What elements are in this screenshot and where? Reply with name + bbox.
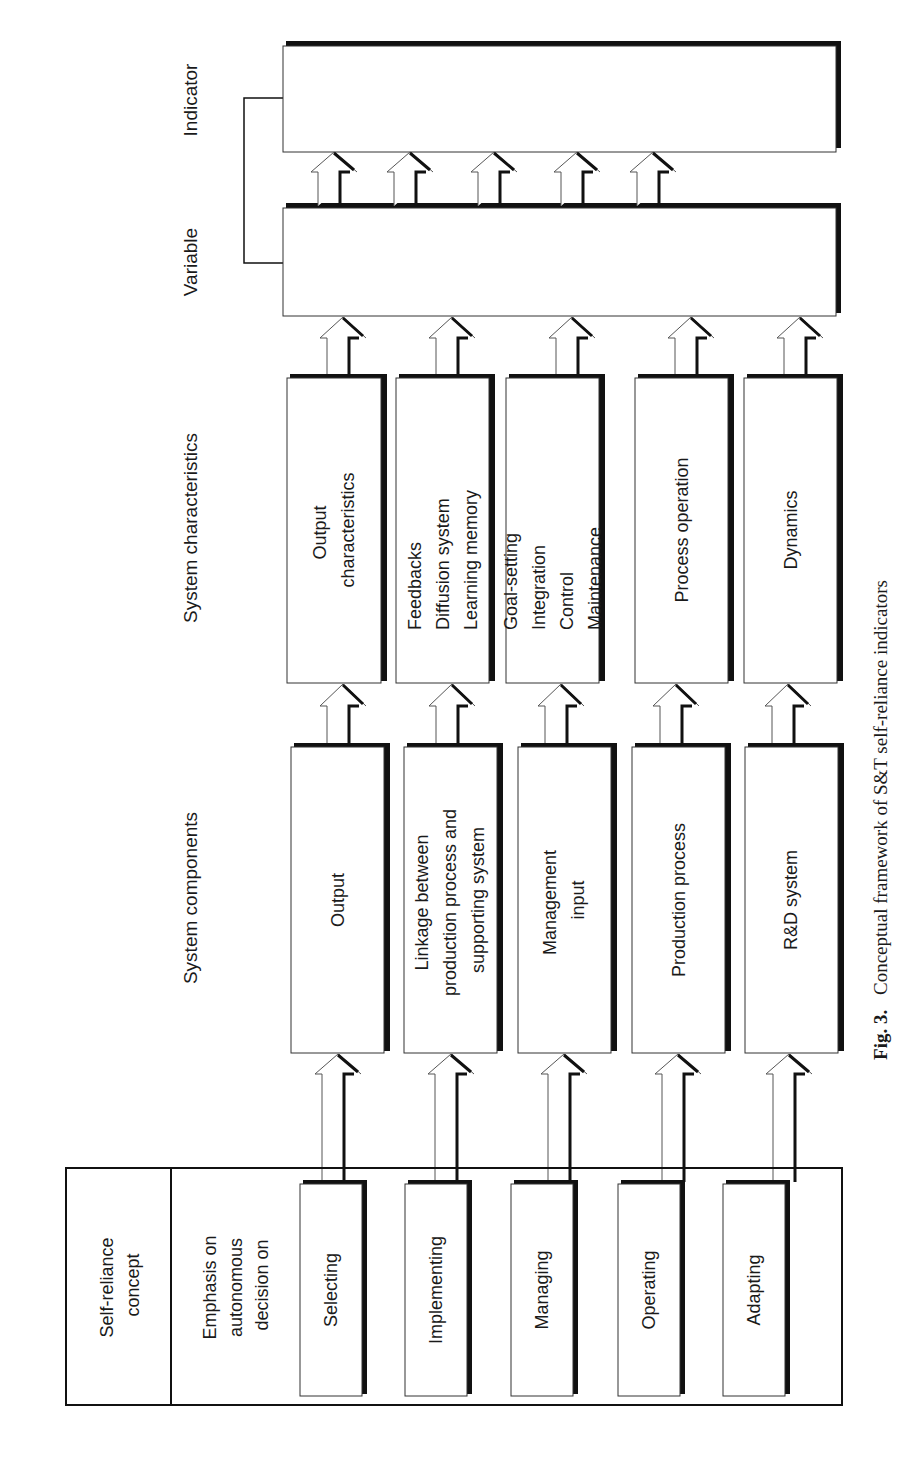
characteristics-text: Feedbacks (405, 542, 425, 630)
characteristics-text: Process operation (672, 457, 692, 602)
decision-box-operating: Operating (618, 1180, 685, 1396)
arrows-components-to-characteristics (320, 684, 811, 745)
table-title: Self-reliance (97, 1237, 117, 1337)
characteristics-box-4: Process operation (635, 374, 734, 683)
arrows-variable-to-indicator (311, 152, 676, 206)
caption-label: Fig. 3. (870, 1010, 891, 1060)
decision-label: Operating (639, 1250, 659, 1329)
component-text: Output (328, 873, 348, 927)
emphasis-label: decision on (252, 1239, 272, 1330)
header-system-characteristics: System characteristics (180, 433, 201, 623)
decision-box-adapting: Adapting (723, 1180, 790, 1396)
characteristics-text: characteristics (338, 472, 358, 587)
characteristics-box-1: Output characteristics (287, 374, 387, 683)
decision-box-selecting: Selecting (300, 1180, 367, 1396)
component-box-1: Output (291, 743, 390, 1053)
arrows-decisions-to-components (315, 1054, 812, 1182)
component-text: Linkage between (412, 834, 432, 970)
decision-box-implementing: Implementing (405, 1180, 472, 1396)
variable-box (283, 203, 841, 316)
emphasis-label: Emphasis on (200, 1235, 220, 1339)
characteristics-box-3: Goal-setting Integration Control Mainten… (501, 374, 605, 683)
svg-text:Production process: Production process (669, 823, 689, 977)
decision-label: Implementing (426, 1236, 446, 1344)
svg-text:Output: Output (328, 873, 348, 927)
characteristics-box-2: Feedbacks Diffusion system Learning memo… (396, 374, 495, 683)
characteristics-text: Output (310, 505, 330, 559)
component-box-5: R&D system (745, 743, 844, 1053)
header-system-components: System components (180, 812, 201, 984)
component-text: Production process (669, 823, 689, 977)
framework-diagram: Indicator Variable System characteristic… (0, 0, 906, 1466)
characteristics-text: Diffusion system (433, 498, 453, 630)
component-text: production process and (440, 809, 460, 996)
component-text: input (568, 880, 588, 919)
characteristics-text: Learning memory (461, 490, 481, 630)
characteristics-text: Control (557, 572, 577, 630)
component-text: supporting system (468, 827, 488, 973)
characteristics-text: Integration (529, 545, 549, 630)
table-title: concept (123, 1253, 143, 1316)
indicator-variable-bracket (244, 98, 283, 263)
characteristics-text: Goal-setting (501, 533, 521, 630)
caption-text: Conceptual framework of S&T self-relianc… (870, 580, 891, 995)
decision-label: Selecting (321, 1253, 341, 1327)
svg-text:Process operation: Process operation (672, 457, 692, 602)
component-text: Management (540, 850, 560, 955)
emphasis-label: autonomous (226, 1238, 246, 1337)
characteristics-text: Maintenance (585, 527, 605, 630)
component-text: R&D system (781, 850, 801, 950)
svg-text:Self-reliance concept: Self-reliance concept (97, 1232, 143, 1337)
figure-caption: Fig. 3. Conceptual framework of S&T self… (870, 580, 891, 1060)
characteristics-text: Dynamics (781, 490, 801, 569)
component-box-4: Production process (632, 743, 731, 1053)
indicator-box (283, 41, 841, 152)
svg-text:Linkage between producti: Linkage between production process and s… (412, 804, 488, 996)
svg-text:R&D system: R&D system (781, 850, 801, 950)
header-variable: Variable (180, 228, 201, 296)
decision-label: Adapting (744, 1254, 764, 1325)
decision-box-managing: Managing (511, 1180, 578, 1396)
decision-label: Managing (532, 1250, 552, 1329)
component-box-2: Linkage between production process and s… (404, 743, 503, 1053)
svg-text:Emphasis on autonomous: Emphasis on autonomous decision on (200, 1230, 272, 1339)
component-box-3: Management input (518, 743, 617, 1053)
arrows-characteristics-to-variable (320, 317, 823, 376)
svg-text:Dynamics: Dynamics (781, 490, 801, 569)
header-indicator: Indicator (180, 63, 201, 137)
characteristics-box-5: Dynamics (744, 374, 843, 683)
